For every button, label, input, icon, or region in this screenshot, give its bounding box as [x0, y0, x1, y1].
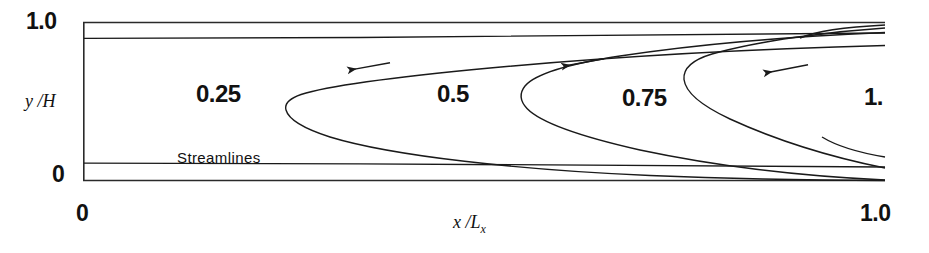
streamline-contour-05	[521, 33, 885, 181]
y-tick-label-1: 1.0	[26, 10, 56, 33]
streamlines-annotation: Streamlines	[177, 150, 261, 165]
streamline-outer-upper	[84, 33, 885, 38]
y-axis-title: y /H	[25, 92, 56, 110]
x-axis-title-main: x /L	[453, 212, 481, 232]
streamlines-figure: 1.0 y /H 0 0 x /Lx 1.0 0.25 0.5 0.75 1. …	[0, 0, 929, 253]
streamline-contour-1-lower	[822, 137, 885, 157]
y-tick-label-0: 0	[52, 163, 64, 186]
streamline-contour-025	[286, 46, 885, 181]
x-axis-title: x /Lx	[453, 213, 486, 235]
x-axis-title-subscript: x	[481, 222, 486, 236]
flow-arrow-075	[768, 65, 808, 73]
x-tick-label-1: 1.0	[860, 202, 890, 225]
contour-label-025: 0.25	[196, 82, 241, 106]
contour-label-075: 0.75	[622, 86, 667, 110]
flow-arrow-025	[352, 63, 390, 70]
contour-label-05: 0.5	[437, 82, 469, 106]
contour-label-1: 1.	[864, 85, 883, 109]
x-tick-label-0: 0	[76, 202, 88, 225]
